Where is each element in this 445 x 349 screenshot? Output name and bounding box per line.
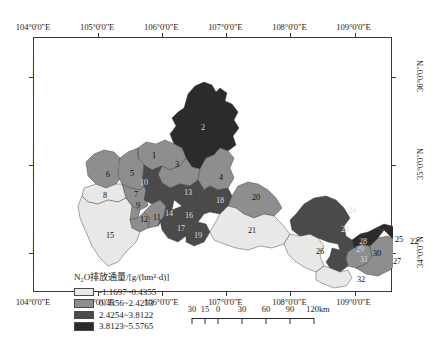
county-label: 12 [140, 216, 148, 224]
county-label: 19 [194, 232, 202, 240]
county-label: 11 [153, 214, 161, 222]
county-label: 18 [216, 197, 224, 205]
county-label: 3 [175, 161, 179, 169]
county-label: 32 [357, 276, 365, 284]
county-label: 1 [152, 152, 156, 160]
county-label: 4 [219, 174, 223, 182]
county-label: 14 [165, 210, 173, 218]
county-label: 22 [410, 238, 418, 246]
county-label: 23 [341, 226, 349, 234]
region-polygon-6[interactable] [86, 150, 122, 188]
lat-label-right: 35°0'0"N [415, 148, 425, 180]
lon-label-bottom: 109°0'0"E [336, 297, 370, 307]
legend-title: N₂O排放通量/[g/(hm²·d)] [74, 270, 169, 283]
county-label: 10 [140, 179, 148, 187]
legend-row[interactable]: -1.1697~0.4355 [74, 286, 169, 298]
lon-label-top: 108°0'0"E [272, 22, 306, 32]
county-label: 13 [184, 189, 192, 197]
scale-label: 90 [286, 305, 294, 314]
county-label: 17 [177, 225, 185, 233]
lon-label-top: 105°0'0"E [80, 22, 114, 32]
scale-label: 15 [201, 305, 209, 314]
scale-label: 120km [306, 305, 329, 314]
legend: N₂O排放通量/[g/(hm²·d)] -1.1697~0.4355 0.435… [74, 270, 169, 332]
scale-label: 30 [238, 305, 246, 314]
county-label: 5 [130, 170, 134, 178]
county-label: 24 [348, 207, 356, 215]
county-label: 27 [393, 258, 401, 266]
lon-label-top: 107°0'0"E [208, 22, 242, 32]
legend-row[interactable]: 3.8123~5.5765 [74, 321, 169, 333]
scale-bar-labels: 30 15 0 30 60 90 120km [192, 305, 314, 317]
county-label: 7 [134, 191, 138, 199]
legend-row[interactable]: 2.4254~3.8122 [74, 309, 169, 321]
county-label: 25 [395, 236, 403, 244]
lon-label-top: 109°0'0"E [336, 22, 370, 32]
scale-label: 30 [188, 305, 196, 314]
county-label: 16 [185, 212, 193, 220]
map-figure: 104°0'0"E 105°0'0"E 106°0'0"E 107°0'0"E … [0, 0, 445, 349]
scale-bar: 30 15 0 30 60 90 120km [192, 305, 314, 325]
legend-swatch [74, 288, 94, 297]
scale-bar-line [192, 318, 314, 325]
legend-swatch [74, 311, 94, 320]
lon-label-top: 104°0'0"E [16, 22, 50, 32]
lon-label-bottom: 104°0'0"E [16, 297, 50, 307]
county-label: 31 [360, 256, 368, 264]
scale-label: 0 [216, 305, 220, 314]
county-label: 30 [373, 250, 381, 258]
legend-label: -1.1697~0.4355 [99, 287, 156, 297]
county-label: 6 [106, 171, 110, 179]
map-frame: 1 2 3 4 5 6 7 8 9 10 11 12 13 14 15 16 1… [33, 37, 392, 292]
scale-label: 60 [262, 305, 270, 314]
county-label: 9 [136, 202, 140, 210]
county-label: 20 [252, 194, 260, 202]
legend-swatch [74, 322, 94, 331]
county-label: 2 [201, 124, 205, 132]
county-label: 29 [356, 246, 364, 254]
lon-label-top: 106°0'0"E [144, 22, 178, 32]
county-label: 8 [103, 192, 107, 200]
county-label: 15 [106, 232, 114, 240]
legend-row[interactable]: 0.4356~2.4253 [74, 298, 169, 310]
lat-label-right: 36°0'0"N [415, 60, 425, 92]
legend-swatch [74, 299, 94, 308]
legend-label: 0.4356~2.4253 [99, 298, 153, 308]
legend-label: 3.8123~5.5765 [99, 321, 153, 331]
legend-label: 2.4254~3.8122 [99, 310, 153, 320]
county-polygons [34, 38, 393, 293]
county-label: 26 [316, 248, 324, 256]
county-label: 21 [248, 227, 256, 235]
legend-title-text: N₂O排放通量/[g/(hm²·d)] [74, 272, 169, 282]
